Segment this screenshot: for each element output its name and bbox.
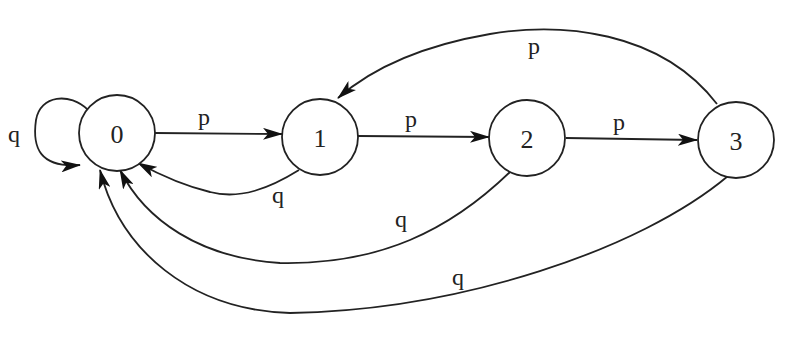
- edge-label-1-2: p: [405, 106, 417, 132]
- edge-2-3: [566, 138, 697, 140]
- node-label-1: 1: [314, 124, 327, 153]
- node-0: 0: [79, 95, 155, 171]
- edge-label-3-0: q: [452, 264, 464, 290]
- node-1: 1: [282, 99, 358, 175]
- node-label-3: 3: [730, 127, 743, 156]
- edge-label-2-0: q: [395, 206, 407, 232]
- node-2: 2: [489, 100, 565, 176]
- edge-label-2-3: p: [613, 109, 625, 135]
- edge-2-0: [120, 170, 510, 263]
- edge-0-1: [155, 133, 282, 134]
- edge-label-0-0: q: [8, 121, 20, 147]
- edge-label-1-0: q: [272, 182, 284, 208]
- state-diagram: q p p p p q q q 0 1 2 3: [0, 0, 792, 342]
- node-label-2: 2: [521, 125, 534, 154]
- edge-label-3-1: p: [528, 33, 540, 59]
- edge-1-2: [358, 136, 489, 137]
- node-label-0: 0: [111, 120, 124, 149]
- edge-label-0-1: p: [198, 104, 210, 130]
- node-3: 3: [698, 102, 774, 178]
